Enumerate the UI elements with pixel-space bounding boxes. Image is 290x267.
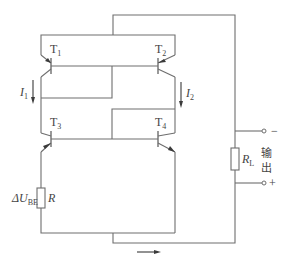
i1-arrow-icon [31,80,35,104]
resistor-r [37,188,45,208]
output-plus-terminal[interactable] [262,181,266,185]
t3-label: T3 [50,115,61,131]
bottom-return-wire [41,208,175,233]
current-mirror-circuit: T1 T2 T3 T4 I1 I2 R ΔUBE RL 输 出 − + [0,0,290,267]
output-minus-terminal[interactable] [262,129,266,133]
output-label-line2: 出 [261,161,272,175]
t1-label: T1 [50,42,61,58]
i2-label: I2 [185,86,194,102]
emitter-arrow-icon [168,146,175,152]
emitter-arrow-icon [43,143,51,149]
t4-label: T4 [155,115,166,131]
i1-label: I1 [19,85,28,101]
load-resistor-rl [231,148,239,170]
r-label: R [47,191,56,205]
loop-current-arrow-icon [137,250,161,254]
t2-label: T2 [155,42,166,58]
delta-ube-label: ΔUBE [11,191,38,207]
outer-loop-wire [113,15,235,243]
output-minus-label: − [271,124,278,138]
transistor-t4 [158,131,175,233]
output-plus-label: + [269,176,276,190]
output-label-line1: 输 [261,146,272,160]
rl-label: RL [241,152,254,168]
i2-arrow-icon [179,82,183,108]
transistor-t3 [41,131,51,188]
